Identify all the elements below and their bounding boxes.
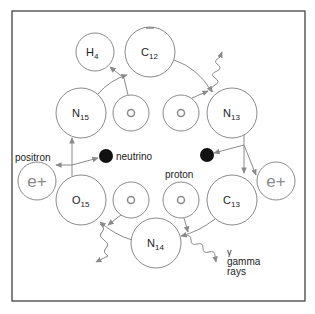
neutrino-dot-right xyxy=(200,148,214,162)
proton-3 xyxy=(163,182,199,218)
proton-2 xyxy=(113,182,149,218)
proton-0 xyxy=(113,95,149,131)
neutrino-dot-left xyxy=(99,149,113,163)
nucleus-h4: H4 xyxy=(76,33,114,71)
proton-label: proton xyxy=(165,169,193,180)
positron-label: positron xyxy=(15,152,51,163)
nucleus-n15: N15 xyxy=(56,88,106,138)
gamma-ray-right xyxy=(185,236,216,263)
neutrino-label: neutrino xyxy=(116,151,153,162)
gamma-ray-left xyxy=(96,224,108,262)
nuclei: H4C12N15N13O15C13N14 xyxy=(56,27,257,268)
rays-label: rays xyxy=(227,266,246,277)
nucleus-c13: C13 xyxy=(207,175,257,225)
nucleus-n13: N13 xyxy=(207,88,257,138)
svg-text:e+: e+ xyxy=(266,172,285,191)
positron-0: e+ xyxy=(18,162,56,200)
proton-1 xyxy=(163,95,199,131)
gamma-ray-top xyxy=(211,52,222,92)
nucleus-n14: N14 xyxy=(131,218,181,268)
nucleus-o15: O15 xyxy=(56,175,106,225)
positron-1: e+ xyxy=(257,162,295,200)
cno-cycle-diagram: H4C12N15N13O15C13N14 e+e+ positron neutr… xyxy=(0,0,315,314)
nucleus-c12: C12 xyxy=(125,27,175,77)
svg-text:e+: e+ xyxy=(27,172,46,191)
